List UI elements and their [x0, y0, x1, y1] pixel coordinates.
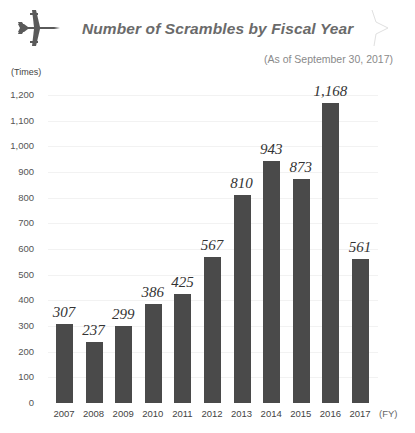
y-tick-label: 700: [2, 217, 34, 228]
bar-2014: [263, 161, 280, 403]
y-tick-label: 600: [2, 243, 34, 254]
y-tick-label: 200: [2, 346, 34, 357]
decorative-arrow-icon: [362, 8, 392, 48]
bar-2011: [174, 294, 191, 403]
x-tick-label: 2014: [256, 408, 286, 419]
x-tick-label: 2013: [227, 408, 257, 419]
bar-2017: [352, 259, 369, 403]
fighter-jet-icon: [14, 8, 62, 48]
bar-2010: [145, 304, 162, 403]
y-tick-label: 500: [2, 269, 34, 280]
bar-value-label: 873: [276, 159, 326, 176]
bar-value-label: 1,168: [305, 83, 355, 100]
x-tick-label: 2011: [167, 408, 197, 419]
bar-2008: [86, 342, 103, 403]
x-tick-label: 2008: [79, 408, 109, 419]
x-tick-label: 2009: [108, 408, 138, 419]
y-tick-label: 1,000: [2, 140, 34, 151]
bar-value-label: 299: [98, 306, 148, 323]
bar-value-label: 561: [335, 239, 385, 256]
x-axis-label: (FY): [379, 408, 397, 419]
y-axis-unit-label: (Times): [11, 67, 41, 77]
chart-title: Number of Scrambles by Fiscal Year: [82, 20, 353, 38]
y-tick-label: 0: [2, 397, 34, 408]
bar-value-label: 425: [157, 274, 207, 291]
y-tick-label: 900: [2, 166, 34, 177]
x-tick-label: 2010: [138, 408, 168, 419]
bar-2015: [293, 179, 310, 403]
y-tick-label: 1,100: [2, 115, 34, 126]
bar-2013: [234, 195, 251, 403]
x-tick-label: 2012: [197, 408, 227, 419]
x-tick-label: 2017: [345, 408, 375, 419]
bar-value-label: 237: [69, 322, 119, 339]
bar-value-label: 567: [187, 237, 237, 254]
x-tick-label: 2016: [315, 408, 345, 419]
x-tick-label: 2007: [49, 408, 79, 419]
bar-value-label: 943: [246, 141, 296, 158]
bar-2012: [204, 257, 221, 403]
y-tick-label: 400: [2, 294, 34, 305]
bar-2009: [115, 326, 132, 403]
y-tick-label: 1,200: [2, 89, 34, 100]
bar-value-label: 810: [217, 175, 267, 192]
y-tick-label: 800: [2, 192, 34, 203]
as-of-date: (As of September 30, 2017): [264, 53, 393, 65]
x-tick-label: 2015: [286, 408, 316, 419]
bar-value-label: 307: [39, 304, 89, 321]
y-tick-label: 300: [2, 320, 34, 331]
y-tick-label: 100: [2, 371, 34, 382]
